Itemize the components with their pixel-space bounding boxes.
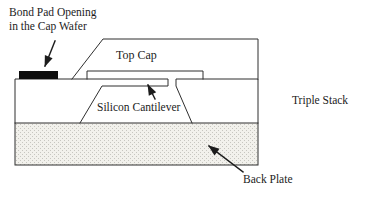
cap-wafer-outline [72,39,258,79]
back-plate-layer [15,123,258,165]
top-cap-label: Top Cap [116,48,157,62]
cantilever-arrow [148,85,155,99]
mems-triple-stack-diagram: Bond Pad Opening in the Cap Wafer Top Ca… [0,0,366,201]
bond-pad-arrow [45,41,55,66]
cap-recess-outline [87,71,203,79]
bond-pad-label: Bond Pad Opening in the Cap Wafer [9,5,97,33]
middle-wafer-right-outline [176,79,258,123]
bond-pad-label-line2: in the Cap Wafer [9,19,97,33]
bond-pad [19,71,58,79]
back-plate-label: Back Plate [243,172,293,186]
triple-stack-label: Triple Stack [292,93,348,107]
silicon-cantilever-label: Silicon Cantilever [97,100,180,114]
bond-pad-label-line1: Bond Pad Opening [9,5,97,19]
